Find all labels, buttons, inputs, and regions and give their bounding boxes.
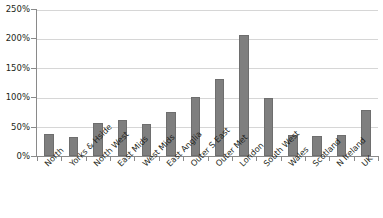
bar-chart: 250% 200% 150% 100% 50% 0% NorthYorks & … — [0, 0, 383, 218]
x-axis-tick — [61, 157, 62, 161]
y-axis-tick — [31, 156, 36, 157]
x-axis-tick — [110, 157, 111, 161]
x-axis-tick — [183, 157, 184, 161]
x-axis-tick — [305, 157, 306, 161]
y-axis-label-50: 50% — [0, 123, 30, 132]
y-axis-tick — [31, 127, 36, 128]
x-axis-tick — [354, 157, 355, 161]
y-axis-tick — [31, 68, 36, 69]
x-axis-tick — [378, 157, 379, 161]
x-axis-tick — [37, 157, 38, 161]
bars-container — [37, 10, 378, 156]
x-axis-tick — [208, 157, 209, 161]
bar — [361, 110, 371, 156]
y-axis-tick — [31, 38, 36, 39]
y-axis-tick — [31, 97, 36, 98]
x-axis-tick — [159, 157, 160, 161]
x-axis-tick — [256, 157, 257, 161]
y-axis-label-200: 200% — [0, 34, 30, 43]
x-axis-tick — [86, 157, 87, 161]
y-axis-label-100: 100% — [0, 93, 30, 102]
y-axis-tick — [31, 9, 36, 10]
x-axis-tick — [329, 157, 330, 161]
x-axis-tick — [281, 157, 282, 161]
y-axis-label-0: 0% — [0, 152, 30, 161]
y-axis-label-150: 150% — [0, 64, 30, 73]
y-axis-label-250: 250% — [0, 5, 30, 14]
x-axis-tick — [232, 157, 233, 161]
x-axis-tick — [134, 157, 135, 161]
